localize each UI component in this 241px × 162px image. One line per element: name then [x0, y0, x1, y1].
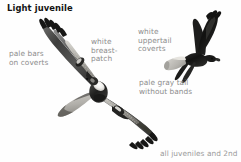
tail [58, 92, 94, 117]
lower-wing [98, 94, 158, 149]
label-white-breast-patch: white breast- patch [91, 38, 117, 64]
flying-hawk-figure [164, 10, 221, 83]
label-pale-gray-tail: pale gray tail without bands [139, 79, 192, 96]
label-white-uppertail-coverts: white uppertail coverts [138, 28, 172, 54]
page-title: Light juvenile [7, 3, 73, 13]
illustration-plate: Light juvenile pale bars on coverts whit… [0, 0, 241, 162]
bird-illustrations [0, 0, 241, 162]
plate-caption: all juveniles and 2nd [160, 150, 238, 159]
label-pale-bars-on-coverts: pale bars on coverts [9, 50, 48, 67]
body [86, 77, 108, 102]
